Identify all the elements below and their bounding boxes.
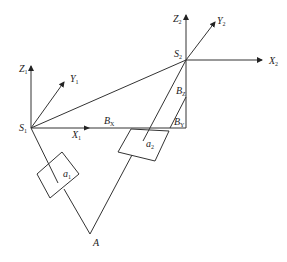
point-a-label: A [92,237,100,248]
by-label: BY [174,116,185,128]
diagram-canvas: Z1 Y1 S1 X1 BX Z2 Y2 S2 X2 BZ BY a1 a2 A [0,0,287,262]
x1-arrow-icon [84,126,90,131]
z2-label: Z2 [173,13,182,25]
box-a2 [118,129,169,161]
s2-label: S2 [174,48,182,60]
z1-label: Z1 [19,63,28,75]
x2-label: X2 [268,55,278,67]
a2-to-a-line [90,155,132,234]
bx-label: BX [104,115,115,127]
a1-label: a1 [63,168,71,180]
s2-to-a2-line [143,60,186,141]
a1-to-a-line [64,189,90,234]
box-a1 [37,152,79,198]
y1-label: Y1 [70,73,79,85]
s1-to-a1-line [31,128,58,183]
y2-axis [186,22,215,60]
y2-label: Y2 [217,15,226,27]
bz-label: BZ [176,85,186,97]
a2-label: a2 [146,138,154,150]
s1-label: S1 [19,122,27,134]
x1-label: X1 [71,129,81,141]
